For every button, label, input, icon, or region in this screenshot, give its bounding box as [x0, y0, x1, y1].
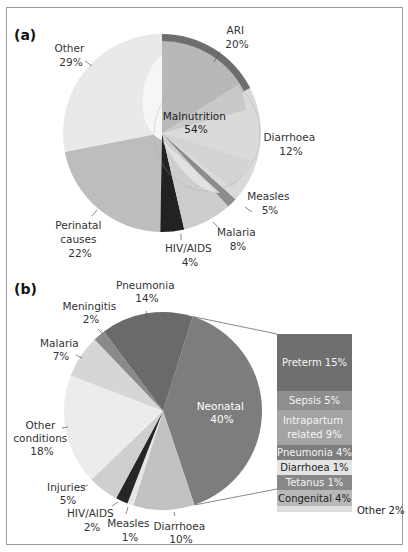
label-a-diarrhoea: Diarrhoea 12%: [263, 131, 318, 157]
label-a-perinatal: Perinatal causes 22%: [55, 219, 105, 259]
bar-label-preterm: Preterm 15%: [282, 357, 347, 368]
label-b-injuries: Injuries 5%: [47, 481, 89, 506]
leader-a-other: [85, 61, 92, 66]
leader-b-diarrhoea: [174, 512, 175, 516]
bar-label-congenital: Congenital 4%: [278, 493, 351, 504]
leader-b-meningitis: [98, 329, 103, 334]
neonatal-breakdown-bar: Preterm 15% Sepsis 5% Intrapartum relate…: [277, 334, 404, 516]
label-b-malaria: Malaria 7%: [40, 337, 82, 362]
panel-a: (a): [14, 24, 319, 268]
leader-b-hiv: [112, 502, 118, 506]
bar-label-diarrhoea: Diarrhoea 1%: [280, 462, 348, 473]
label-b-pneumonia: Pneumonia 14%: [116, 279, 178, 304]
label-b-measles: Measles 1%: [107, 517, 153, 543]
label-b-other-conditions: Other conditions 18%: [13, 419, 70, 457]
panel-a-label: (a): [14, 27, 36, 43]
bar-seg-other: [277, 506, 352, 512]
pie-a: [63, 34, 261, 232]
bar-label-sepsis: Sepsis 5%: [289, 395, 340, 406]
label-a-other: Other 29%: [54, 42, 87, 68]
leader-a-measles: [245, 207, 252, 212]
panel-b-label: (b): [14, 281, 37, 297]
leader-a-perinatal: [92, 210, 97, 216]
label-a-hiv: HIV/AIDS 4%: [165, 242, 215, 268]
leader-b-measles: [126, 507, 128, 514]
panel-b: (b): [13, 279, 404, 545]
bar-label-pneumonia: Pneumonia 4%: [277, 447, 352, 458]
bar-label-tetanus: Tetanus 1%: [285, 477, 344, 488]
label-a-ari: ARI 20%: [225, 24, 248, 50]
label-a-measles: Measles 5%: [247, 190, 293, 216]
figure-canvas: (a): [0, 0, 408, 552]
label-a-malaria: Malaria 8%: [217, 226, 259, 252]
bar-label-other: Other 2%: [357, 505, 404, 516]
label-b-meningitis: Meningitis 2%: [62, 300, 119, 325]
label-b-diarrhoea: Diarrhoea 10%: [153, 520, 208, 545]
